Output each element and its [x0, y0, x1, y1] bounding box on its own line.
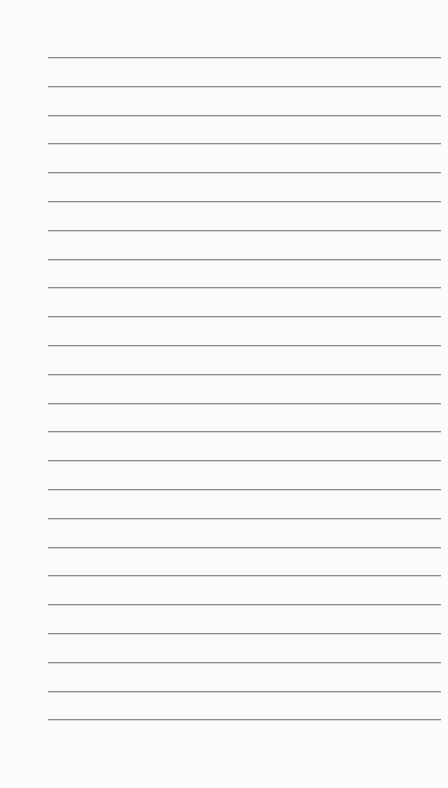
ruled-line	[48, 604, 441, 605]
lined-paper-page	[0, 0, 448, 788]
ruled-line	[48, 719, 441, 720]
ruled-line	[48, 547, 441, 548]
ruled-line	[48, 633, 441, 634]
ruled-line	[48, 57, 441, 58]
ruled-line	[48, 460, 441, 461]
ruled-line	[48, 115, 441, 116]
ruled-line	[48, 259, 441, 260]
ruled-line	[48, 143, 441, 144]
ruled-line	[48, 489, 441, 490]
ruled-line	[48, 201, 441, 202]
ruled-line	[48, 518, 441, 519]
ruled-line	[48, 230, 441, 231]
ruled-line	[48, 431, 441, 432]
ruled-line	[48, 172, 441, 173]
ruled-line	[48, 316, 441, 317]
ruled-line	[48, 287, 441, 288]
ruled-line	[48, 86, 441, 87]
ruled-line	[48, 374, 441, 375]
ruled-line	[48, 345, 441, 346]
ruled-line	[48, 403, 441, 404]
ruled-line	[48, 662, 441, 663]
ruled-line	[48, 691, 441, 692]
ruled-line	[48, 575, 441, 576]
